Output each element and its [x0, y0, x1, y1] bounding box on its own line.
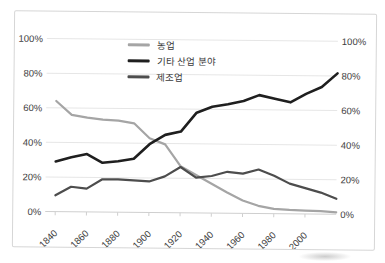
svg-text:1980: 1980	[255, 229, 278, 249]
svg-text:80%: 80%	[341, 71, 361, 82]
svg-text:1940: 1940	[193, 229, 216, 250]
photo-shadow-artifact	[299, 252, 351, 261]
svg-text:100%: 100%	[19, 33, 44, 44]
svg-text:40%: 40%	[341, 140, 361, 151]
legend-item-agriculture: 농업	[128, 38, 216, 51]
x-axis-labels: 184018601880190019201940196019802000	[37, 227, 310, 250]
svg-text:20%: 20%	[22, 171, 42, 182]
svg-text:1840: 1840	[37, 227, 60, 249]
screenshot-root: { "figure": { "background_color": "#ffff…	[0, 0, 385, 263]
series-lines	[55, 71, 337, 213]
svg-text:60%: 60%	[23, 102, 43, 113]
series-line-2	[55, 166, 336, 199]
agriculture-line-swatch	[128, 43, 150, 46]
series-line-0	[55, 101, 337, 212]
y-axis-labels-right: 0%20%40%60%80%100%	[340, 36, 367, 220]
svg-text:20%: 20%	[340, 174, 360, 185]
y-axis-labels-left: 0%20%40%60%80%100%	[17, 33, 44, 217]
svg-text:0%: 0%	[27, 206, 41, 217]
legend-label-agriculture: 농업	[157, 38, 175, 52]
svg-text:1900: 1900	[130, 228, 153, 250]
svg-text:2000: 2000	[286, 230, 309, 250]
svg-text:40%: 40%	[23, 137, 43, 148]
legend-label-other-industries: 기타 산업 분야	[157, 54, 216, 69]
other-industries-line-swatch	[128, 59, 150, 62]
legend-label-manufacturing: 제조업	[156, 70, 183, 84]
svg-text:0%: 0%	[340, 209, 354, 220]
legend-item-manufacturing: 제조업	[127, 70, 215, 83]
svg-text:60%: 60%	[341, 105, 361, 116]
manufacturing-line-swatch	[128, 75, 150, 78]
svg-text:1860: 1860	[68, 228, 91, 250]
svg-text:100%: 100%	[342, 36, 367, 47]
svg-text:1960: 1960	[224, 229, 247, 250]
svg-text:1920: 1920	[161, 228, 184, 249]
legend-item-other-industries: 기타 산업 분야	[128, 54, 216, 67]
svg-text:80%: 80%	[23, 67, 43, 78]
legend: 농업 기타 산업 분야 제조업	[127, 38, 216, 83]
chart-photo-frame: 0%20%40%60%80%100% 0%20%40%60%80%100% 18…	[12, 10, 377, 250]
svg-text:1880: 1880	[99, 228, 122, 250]
